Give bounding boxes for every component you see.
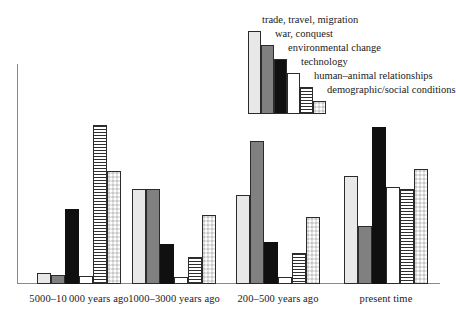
bar-g1-s1 <box>37 273 51 284</box>
legend-label-trade-travel-migration: trade, travel, migration <box>262 14 358 25</box>
bar-g4-s2 <box>358 226 372 284</box>
bar-g1-s3 <box>65 209 79 284</box>
legend-swatch-demographic-social-conditions <box>313 101 326 114</box>
bar-g4-s6 <box>414 169 428 284</box>
x-tick-label-2: 200–500 years ago <box>212 293 344 304</box>
bar-g4-s4 <box>386 187 400 284</box>
bar-g3-s5 <box>292 253 306 284</box>
chart-legend: trade, travel, migration war, conquest e… <box>248 14 447 114</box>
bar-g3-s4 <box>278 277 292 284</box>
bar-g1-s2 <box>51 275 65 284</box>
bar-g2-s1 <box>132 189 146 284</box>
bar-g4-s3 <box>372 127 386 284</box>
bar-g1-s4 <box>79 276 93 284</box>
bar-g1-s6 <box>107 171 121 284</box>
legend-swatch-war-conquest <box>261 45 274 114</box>
bar-g3-s6 <box>306 217 320 284</box>
bar-g4-s1 <box>344 176 358 284</box>
bar-g2-s6 <box>202 215 216 284</box>
y-axis-line <box>17 64 18 284</box>
bar-g2-s4 <box>174 277 188 284</box>
legend-label-war-conquest: war, conquest <box>275 28 333 39</box>
bar-g4-s5 <box>400 189 414 284</box>
bar-g2-s2 <box>146 189 160 284</box>
bar-g3-s1 <box>236 195 250 284</box>
bar-g2-s3 <box>160 244 174 284</box>
x-tick-label-3: present time <box>326 293 446 304</box>
bar-g3-s2 <box>250 141 264 284</box>
legend-swatch-technology <box>287 73 300 114</box>
legend-swatch-trade-travel-migration <box>248 31 261 114</box>
legend-label-demographic-social-conditions: demographic/social conditions <box>327 84 456 95</box>
legend-label-environmental-change: environmental change <box>288 42 381 53</box>
legend-swatch-environmental-change <box>274 59 287 114</box>
bar-g2-s5 <box>188 257 202 284</box>
bar-g3-s3 <box>264 242 278 284</box>
legend-label-human-animal-relationships: human–animal relationships <box>314 70 433 81</box>
bar-g1-s5 <box>93 125 107 284</box>
legend-label-technology: technology <box>301 56 348 67</box>
legend-swatch-human-animal-relationships <box>300 87 313 114</box>
